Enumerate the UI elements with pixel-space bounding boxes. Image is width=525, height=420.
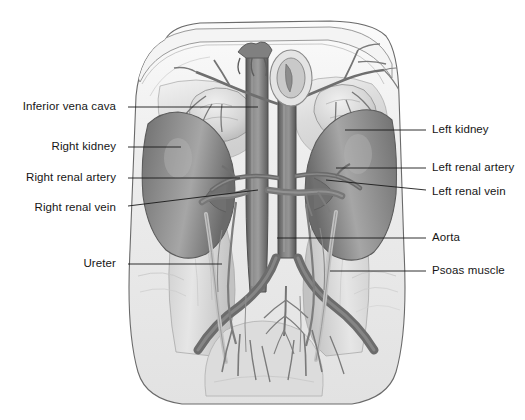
label-left-renal-artery: Left renal artery: [432, 162, 514, 174]
label-right-renal-vein: Right renal vein: [34, 202, 116, 214]
label-aorta: Aorta: [432, 232, 460, 244]
label-left-kidney: Left kidney: [432, 124, 489, 136]
esophageal-hiatus-cross-section: [270, 50, 312, 106]
label-inferior-vena-cava: Inferior vena cava: [23, 101, 116, 113]
label-psoas-muscle: Psoas muscle: [432, 265, 505, 277]
label-ureter: Ureter: [83, 258, 116, 270]
figure-caption: [0, 406, 525, 420]
label-right-renal-artery: Right renal artery: [26, 172, 116, 184]
label-left-renal-vein: Left renal vein: [432, 186, 506, 198]
label-right-kidney: Right kidney: [52, 141, 116, 153]
